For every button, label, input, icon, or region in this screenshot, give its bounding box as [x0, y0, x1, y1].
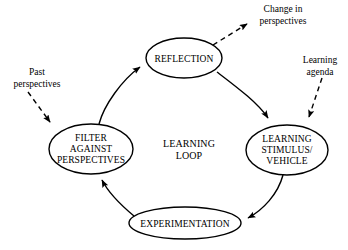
- flow-arrow-filter-to-reflection: [99, 67, 140, 124]
- center-label-line2: LOOP: [176, 150, 203, 161]
- diagram-canvas: REFLECTION LEARNING STIMULUS/ VEHICLE EX…: [0, 0, 348, 250]
- center-label-line1: LEARNING: [163, 138, 215, 149]
- node-learning-stimulus-vehicle[interactable]: LEARNING STIMULUS/ VEHICLE: [246, 125, 328, 175]
- node-filter-against-perspectives-label-line1: FILTER: [75, 133, 107, 143]
- external-label-past-perspectives-line1: Past: [29, 67, 45, 77]
- external-label-past-perspectives-line2: perspectives: [14, 79, 61, 89]
- node-filter-against-perspectives[interactable]: FILTER AGAINST PERSPECTIVES: [49, 124, 133, 174]
- node-filter-against-perspectives-label-line2: AGAINST: [70, 144, 112, 154]
- learning-loop-diagram: REFLECTION LEARNING STIMULUS/ VEHICLE EX…: [0, 0, 348, 250]
- flow-arrow-reflection-to-stimulus: [217, 72, 268, 118]
- node-reflection[interactable]: REFLECTION: [146, 38, 222, 78]
- external-label-change-in-perspectives: Change in perspectives: [260, 4, 307, 26]
- dashed-arrow-past-perspectives: [28, 92, 50, 122]
- flow-arrow-experimentation-to-filter: [102, 180, 134, 216]
- center-label-learning-loop: LEARNING LOOP: [163, 138, 215, 161]
- node-learning-stimulus-vehicle-label-line2: STIMULUS/: [261, 145, 312, 155]
- external-label-learning-agenda: Learning agenda: [303, 55, 338, 77]
- flow-arrow-stimulus-to-experimentation: [248, 175, 283, 218]
- external-label-past-perspectives: Past perspectives: [14, 67, 61, 89]
- external-label-learning-agenda-line2: agenda: [307, 67, 335, 77]
- node-reflection-label: REFLECTION: [154, 54, 213, 64]
- node-learning-stimulus-vehicle-label-line3: VEHICLE: [266, 156, 307, 166]
- node-experimentation[interactable]: EXPERIMENTATION: [129, 207, 241, 239]
- external-label-change-in-perspectives-line2: perspectives: [260, 16, 307, 26]
- node-experimentation-label: EXPERIMENTATION: [140, 219, 229, 229]
- dashed-arrow-change-in-perspectives: [213, 24, 247, 45]
- external-label-learning-agenda-line1: Learning: [303, 55, 338, 65]
- external-label-change-in-perspectives-line1: Change in: [264, 4, 303, 14]
- dashed-arrow-learning-agenda: [309, 78, 322, 117]
- node-learning-stimulus-vehicle-label-line1: LEARNING: [262, 134, 311, 144]
- node-filter-against-perspectives-label-line3: PERSPECTIVES: [57, 155, 125, 165]
